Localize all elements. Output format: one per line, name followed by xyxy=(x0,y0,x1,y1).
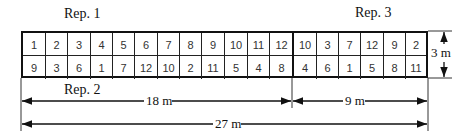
dimension-3m: 3 m xyxy=(431,45,451,61)
dimension-27m: 27 m xyxy=(215,116,241,132)
dimension-18m: 18 m xyxy=(146,93,172,109)
dimension-9m: 9 m xyxy=(345,93,365,109)
rep2-label: Rep. 2 xyxy=(64,82,101,98)
